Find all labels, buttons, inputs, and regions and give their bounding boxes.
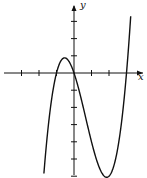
y-axis-label: y bbox=[80, 0, 86, 10]
x-axis-label: x bbox=[138, 71, 144, 82]
plot-area bbox=[0, 0, 147, 178]
y-arrow-icon bbox=[72, 5, 77, 11]
function-curve bbox=[44, 16, 131, 177]
function-graph: y x bbox=[0, 0, 147, 178]
